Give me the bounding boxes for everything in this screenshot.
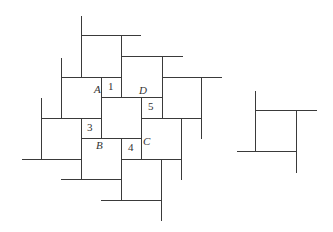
vertex-label-a: A xyxy=(93,83,101,95)
pinwheel-figure xyxy=(22,16,222,221)
diagram-canvas: A B C D 1 3 4 5 xyxy=(0,0,333,232)
vertex-label-d: D xyxy=(138,84,147,96)
vertex-label-c: C xyxy=(143,135,151,147)
labels: A B C D 1 3 4 5 xyxy=(87,80,154,153)
region-label-4: 4 xyxy=(128,141,134,153)
region-label-5: 5 xyxy=(148,100,154,112)
region-label-1: 1 xyxy=(108,80,114,92)
single-square-figure xyxy=(237,91,317,173)
vertex-label-b: B xyxy=(96,139,103,151)
region-label-3: 3 xyxy=(87,121,93,133)
